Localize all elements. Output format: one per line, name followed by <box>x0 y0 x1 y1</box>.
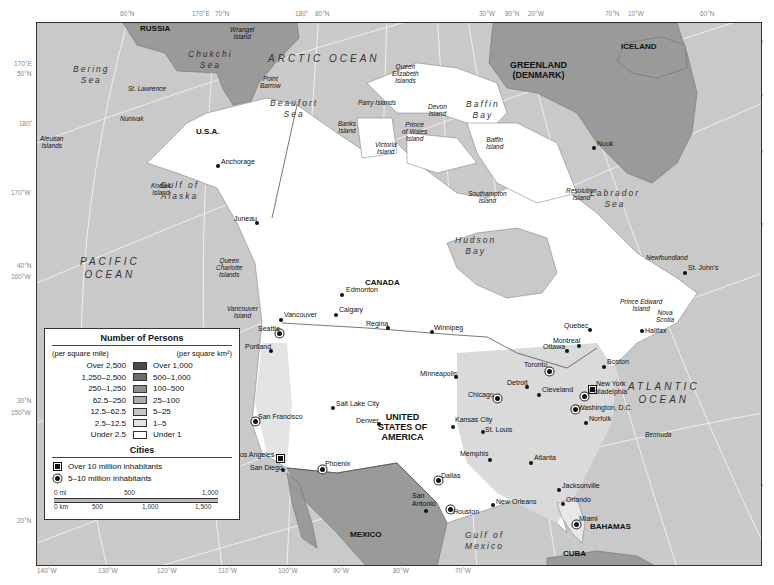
density-per-km: 25–100 <box>153 396 180 405</box>
city-marker-salt-lake-city-icon[interactable] <box>331 406 335 410</box>
edge-label-top: 80°N <box>315 10 330 17</box>
island-label-parry-islands: Parry Islands <box>358 99 396 106</box>
city-label-norfolk: Norfolk <box>589 415 611 423</box>
density-class-row: 12.5–62.55–25 <box>52 406 232 418</box>
city-label-edmonton: Edmonton <box>346 286 378 294</box>
city-marker-ottawa-icon[interactable] <box>565 349 569 353</box>
city-marker-memphis-icon[interactable] <box>488 458 492 462</box>
water-label-arctic-ocean: ARCTIC OCEAN <box>268 52 380 65</box>
island-label-queen-charlotte-islands: QueenCharlotteIslands <box>216 257 242 278</box>
city-label-detroit: Detroit <box>507 379 528 387</box>
city-marker-vancouver-icon[interactable] <box>279 318 283 322</box>
city-label-regina: Regina <box>366 320 388 328</box>
city-marker-halifax-icon[interactable] <box>640 329 644 333</box>
island-label-nova-scotia: NovaScotia <box>656 309 674 323</box>
country-label-russia: RUSSIA <box>140 25 170 33</box>
island-label-point-barrow: PointBarrow <box>260 75 281 89</box>
city-class-5-10m: 5–10 million inhabitants <box>52 473 232 485</box>
island-label-devon-island: DevonIsland <box>428 103 447 117</box>
island-label-resolution-island: ResolutionIsland <box>566 187 597 201</box>
city-marker-philadelphia-icon[interactable] <box>582 394 587 399</box>
edge-label-left: 160°W <box>11 273 31 280</box>
city-label-miami: Miami <box>579 515 598 523</box>
scale-bar-line <box>54 498 218 503</box>
island-label-bermuda: Bermuda <box>645 431 671 438</box>
edge-label-bottom: 120°W <box>157 567 177 574</box>
legend-units: (per square mile) (per square km²) <box>52 349 232 358</box>
water-label-baffin-bay: BaffinBay <box>466 99 500 121</box>
edge-label-bottom: 130°W <box>98 567 118 574</box>
density-per-km: Over 1,000 <box>153 361 193 370</box>
island-label-victoria-island: VictoriaIsland <box>375 141 397 155</box>
city-label-calgary: Calgary <box>339 306 363 314</box>
island-label-nunivak: Nunivak <box>120 115 143 122</box>
city-marker-chicago-icon[interactable] <box>495 396 500 401</box>
city-marker-cleveland-icon[interactable] <box>537 393 541 397</box>
city-marker-boston-icon[interactable] <box>602 365 606 369</box>
country-label-cuba: CUBA <box>563 550 586 558</box>
city-marker-toronto-icon[interactable] <box>547 369 552 374</box>
density-swatch <box>133 385 147 393</box>
square-city-icon <box>52 463 62 470</box>
city-marker-calgary-icon[interactable] <box>334 313 338 317</box>
city-marker-st-john-s-icon[interactable] <box>683 271 687 275</box>
density-class-row: 2.5–12.51–5 <box>52 418 232 430</box>
city-marker-norfolk-icon[interactable] <box>584 421 588 425</box>
city-label-new-york: New York <box>596 380 626 388</box>
city-marker-new-orleans-icon[interactable] <box>491 503 495 507</box>
edge-label-top: 70°N <box>215 10 230 17</box>
country-label-u-s-a: U.S.A. <box>196 128 220 136</box>
island-label-kodiak-island: KodiakIsland <box>151 182 171 196</box>
edge-label-bottom: 90°W <box>333 567 349 574</box>
country-label-united-states-of-america: UNITEDSTATES OFAMERICA <box>378 412 427 442</box>
density-per-mile: Over 2,500 <box>52 361 126 370</box>
island-label-newfoundland: Newfoundland <box>646 254 688 261</box>
city-label-anchorage: Anchorage <box>221 158 255 166</box>
city-marker-anchorage-icon[interactable] <box>216 164 220 168</box>
density-per-km: 100–500 <box>153 384 184 393</box>
city-marker-atlanta-icon[interactable] <box>529 461 533 465</box>
city-label-washington-d-c: Washington, D.C. <box>578 404 633 412</box>
city-label-st-louis: St. Louis <box>485 426 512 434</box>
edge-label-bottom: 80°W <box>393 567 409 574</box>
country-label-greenland-denmark: GREENLAND(DENMARK) <box>510 60 567 80</box>
city-marker-jacksonville-icon[interactable] <box>557 488 561 492</box>
city-label-san-diego: San Diego <box>250 464 283 472</box>
edge-label-top: 170°E <box>192 10 210 17</box>
city-label-vancouver: Vancouver <box>284 311 317 319</box>
edge-label-left: 30°N <box>17 397 32 404</box>
edge-label-bottom: 110°W <box>218 567 237 574</box>
city-label-nuuk: Nuuk <box>597 140 613 148</box>
city-marker-orlando-icon[interactable] <box>561 502 565 506</box>
city-marker-edmonton-icon[interactable] <box>340 293 344 297</box>
edge-label-top: 70°N <box>605 10 620 17</box>
country-label-iceland: ICELAND <box>621 43 657 51</box>
city-label-orlando: Orlando <box>566 496 591 504</box>
density-swatch <box>133 362 147 370</box>
edge-label-top: 20°W <box>528 10 544 17</box>
city-marker-nuuk-icon[interactable] <box>592 146 596 150</box>
density-per-km: 500–1,000 <box>153 373 191 382</box>
city-label-chicago: Chicago <box>468 391 494 399</box>
city-marker-los-angeles-icon[interactable] <box>277 455 284 462</box>
edge-label-left: 150°W <box>11 409 31 416</box>
edge-label-left: 170°E <box>14 60 32 67</box>
edge-label-left: 40°N <box>17 262 32 269</box>
water-label-labrador-sea: LabradorSea <box>590 188 640 210</box>
city-label-cleveland: Cleveland <box>542 386 573 394</box>
city-label-portland: Portland <box>245 343 271 351</box>
water-label-bering-sea: BeringSea <box>73 64 110 86</box>
city-label-quebec: Quebec <box>564 322 589 330</box>
density-class-row: 1,250–2,500500–1,000 <box>52 372 232 384</box>
city-marker-san-antonio-icon[interactable] <box>424 509 428 513</box>
country-label-mexico: MEXICO <box>350 531 382 539</box>
water-label-gulf-of-mexico: Gulf ofMexico <box>465 530 504 552</box>
city-label-seattle: Seattle <box>258 325 280 333</box>
edge-label-top: 180° <box>295 10 308 17</box>
city-marker-kansas-city-icon[interactable] <box>451 425 455 429</box>
city-label-phoenix: Phoenix <box>325 460 350 468</box>
island-label-banks-island: BanksIsland <box>338 120 356 134</box>
city-label-philadelphia: Philadelphia <box>589 388 627 396</box>
city-label-new-orleans: New Orleans <box>496 498 536 506</box>
density-class-row: Under 2.5Under 1 <box>52 429 232 441</box>
